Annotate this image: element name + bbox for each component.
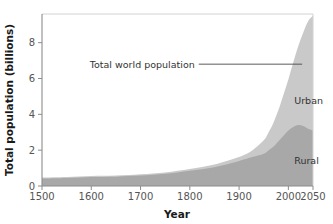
y-tick-label: 0 (29, 181, 35, 192)
population-area-chart: 02468 1500160017001800190020002050 Total… (0, 0, 333, 224)
x-tick-label: 1600 (79, 191, 104, 202)
x-tick-label: 1500 (29, 191, 54, 202)
x-tick-label: 2000 (276, 191, 301, 202)
y-tick-label: 4 (29, 109, 35, 120)
x-tick-label: 1700 (128, 191, 153, 202)
y-tick-label: 2 (29, 145, 35, 156)
y-tick-label: 8 (29, 37, 35, 48)
rural-series-label: Rural (294, 155, 319, 166)
x-axis-ticks: 1500160017001800190020002050 (29, 186, 325, 202)
x-tick-label: 1900 (226, 191, 251, 202)
chart-figure: 02468 1500160017001800190020002050 Total… (0, 0, 333, 224)
x-tick-label: 1800 (177, 191, 202, 202)
x-axis-title: Year (163, 208, 191, 220)
urban-series-label: Urban (294, 95, 323, 106)
x-tick-label: 2050 (300, 191, 325, 202)
total-world-population-label: Total world population (89, 59, 195, 70)
y-axis-title: Total population (billions) (3, 24, 15, 176)
y-axis-ticks: 02468 (29, 37, 42, 191)
y-tick-label: 6 (29, 73, 35, 84)
